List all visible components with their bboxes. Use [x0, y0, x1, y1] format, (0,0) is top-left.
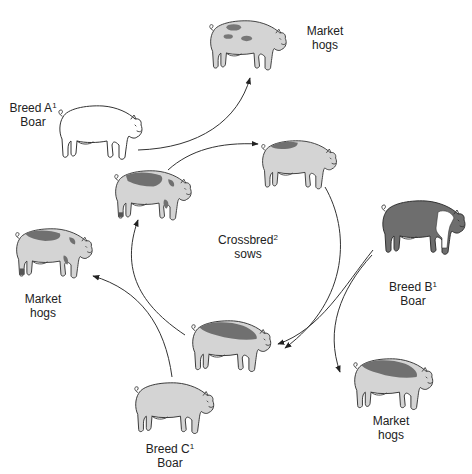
label-market-left-line2: hogs — [30, 306, 56, 320]
label-market-bottom-right-line2: hogs — [378, 428, 404, 442]
label-market-top-line1: Market — [307, 24, 344, 38]
label-market-top-line2: hogs — [312, 38, 338, 52]
pig-sow-bottom — [192, 321, 271, 372]
label-market-bottom-right-line1: Market — [373, 414, 410, 428]
arrow-boar-a-to-market — [138, 78, 250, 150]
label-market-left: Market hogs — [20, 292, 66, 320]
arrow-circle-left — [131, 220, 185, 335]
pig-sow-top-right — [262, 141, 337, 189]
footnote-1: 1 — [432, 280, 436, 289]
label-market-bottom-right: Market hogs — [368, 414, 414, 442]
label-sows: Crossbred2 sows — [212, 233, 284, 261]
label-sows-line1: Crossbred — [218, 233, 273, 247]
pig-boar-c — [135, 383, 214, 434]
footnote-2: 2 — [273, 233, 277, 242]
label-boar-c-line2: Boar — [157, 456, 182, 470]
label-boar-b-line1: Breed B — [389, 280, 432, 294]
pig-boar-b — [382, 201, 465, 254]
pig-market-left — [16, 229, 92, 278]
pig-boar-a — [59, 106, 142, 159]
arrow-boar-b-to-sow — [278, 250, 373, 344]
arrow-sow-to-sow — [168, 144, 258, 170]
pig-market-top — [210, 21, 286, 70]
label-boar-a: Breed A1 Boar — [8, 101, 58, 129]
label-sows-line2: sows — [234, 247, 261, 261]
label-boar-b-line2: Boar — [400, 294, 425, 308]
pig-market-bottom-right — [354, 359, 433, 410]
footnote-1: 1 — [190, 442, 194, 451]
label-boar-b: Breed B1 Boar — [385, 280, 441, 308]
label-market-top: Market hogs — [303, 24, 347, 52]
label-market-left-line1: Market — [25, 292, 62, 306]
footnote-1: 1 — [52, 101, 56, 110]
label-boar-a-line2: Boar — [20, 115, 45, 129]
label-boar-c-line1: Breed C — [146, 442, 190, 456]
arrow-boar-c-to-market — [93, 276, 172, 377]
label-boar-c: Breed C1 Boar — [142, 442, 198, 470]
label-boar-a-line1: Breed A — [9, 101, 52, 115]
arrow-boar-b-to-market — [334, 255, 372, 372]
pig-sow-top-left — [115, 171, 191, 220]
